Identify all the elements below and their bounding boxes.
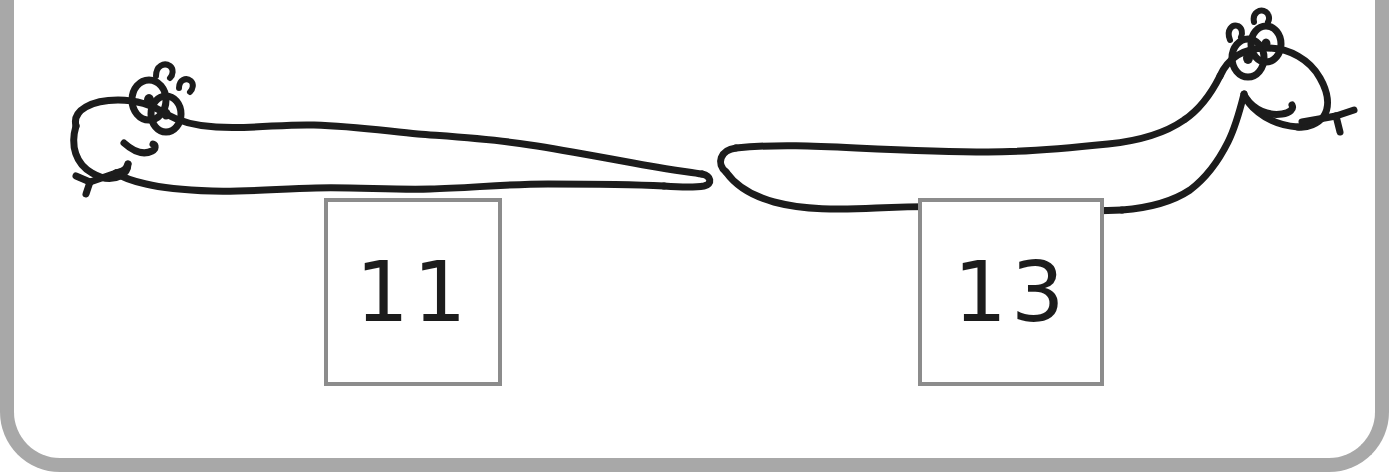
- answer-value-left: 11: [356, 250, 471, 334]
- card-content-area: 11 13: [14, 0, 1375, 472]
- answer-box-right[interactable]: 13: [918, 198, 1104, 386]
- worm-right-illustration: [14, 0, 1375, 472]
- answer-value-right: 13: [954, 250, 1069, 334]
- worksheet-card: 11 13: [0, 0, 1389, 472]
- answer-box-left[interactable]: 11: [324, 198, 502, 386]
- worm-left-illustration: [14, 0, 1375, 472]
